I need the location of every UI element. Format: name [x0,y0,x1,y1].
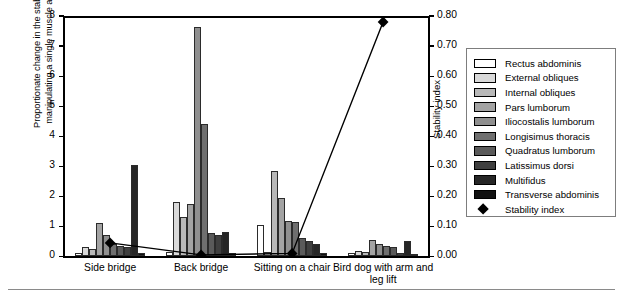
legend-swatch [474,161,496,170]
bar [96,223,103,256]
legend-swatch [474,146,496,155]
left-tick-label: 3 [33,159,55,170]
right-tick-mark [429,196,434,197]
legend-swatch [474,59,496,68]
left-tick-label: 1 [33,219,55,230]
legend-item[interactable]: Pars lumborum [474,100,615,115]
left-tick-mark [59,196,64,197]
right-tick-mark [429,136,434,137]
legend-label: Rectus abdominis [505,58,581,69]
legend-item[interactable]: Quadratus lumborum [474,144,615,159]
right-tick-mark [429,166,434,167]
bar [229,253,236,257]
bar [215,235,222,256]
bar [292,222,299,257]
left-tick-mark [59,136,64,137]
right-tick-mark [429,76,434,77]
bar [187,204,194,257]
right-axis-line [428,16,430,258]
left-tick-mark [59,106,64,107]
right-tick-label: 0.10 [437,219,469,230]
bar [138,253,145,256]
bar [313,244,320,256]
bar [271,171,278,257]
left-tick-mark [59,15,64,16]
right-tick-mark [429,15,434,16]
left-tick-label: 2 [33,189,55,200]
bar [369,240,376,257]
bar [131,165,138,257]
left-tick-label: 6 [33,69,55,80]
right-tick-label: 0.40 [437,129,469,140]
bar [404,241,411,256]
left-tick-mark [59,256,64,257]
legend-label: Quadratus lumborum [505,145,595,156]
bar [299,238,306,257]
bar [264,252,271,256]
left-tick-label: 0 [33,249,55,260]
bottom-axis-line [63,256,430,258]
right-tick-label: 0.20 [437,189,469,200]
bar [320,253,327,256]
bar [194,27,201,257]
right-tick-label: 0.50 [437,99,469,110]
legend-item[interactable]: External obliques [474,71,615,86]
legend-label: Stability index [505,204,564,215]
left-tick-label: 4 [33,129,55,140]
bar [110,244,117,256]
right-tick-mark [429,226,434,227]
legend-label: Multifidus [505,175,546,186]
legend-item[interactable]: Latissimus dorsi [474,158,615,173]
right-tick-label: 0.00 [437,249,469,260]
bar [348,253,355,256]
left-tick-label: 8 [33,9,55,20]
legend-swatch [474,88,496,97]
left-tick-mark [59,166,64,167]
bar [173,202,180,256]
left-tick-label: 7 [33,39,55,50]
bar [376,244,383,257]
legend-label: Latissimus dorsi [505,160,574,171]
legend-item[interactable]: Multifidus [474,173,615,188]
bar [383,246,390,257]
legend-swatch [474,102,496,111]
bar [208,233,215,256]
x-axis-group-label: Bird dog with arm and leg lift [328,262,438,285]
bar [397,253,404,257]
legend-label: Internal obliques [505,87,575,98]
legend-swatch [474,117,496,126]
legend-label: Transverse abdominis [505,189,599,200]
legend-label: External obliques [505,72,579,83]
bar [75,253,82,257]
legend-item[interactable]: Stability index [474,202,615,217]
legend-swatch [474,190,496,199]
legend-item[interactable]: Transverse abdominis [474,187,615,202]
legend-item[interactable]: Internal obliques [474,85,615,100]
right-tick-label: 0.30 [437,159,469,170]
bar [390,247,397,256]
bar [180,217,187,256]
legend-label: Longisimus thoracis [505,131,590,142]
legend: Rectus abdominisExternal obliquesInterna… [466,48,616,217]
legend-swatch [474,73,496,82]
right-tick-label: 0.70 [437,39,469,50]
bar [82,247,89,256]
bar [257,225,264,257]
chart-figure: Proportionate change in the stability in… [0,0,623,298]
plot-area: 012345678 0.000.100.200.300.400.500.600.… [63,16,430,258]
right-tick-mark [429,45,434,46]
legend-item[interactable]: Rectus abdominis [474,56,615,71]
bar [103,235,110,256]
bar [278,198,285,257]
legend-item[interactable]: Longisimus thoracis [474,129,615,144]
left-tick-mark [59,76,64,77]
left-tick-mark [59,226,64,227]
bottom-rule [8,289,615,290]
right-tick-mark [429,106,434,107]
legend-item[interactable]: Iliocostalis lumborum [474,114,615,129]
bar [222,232,229,256]
diamond-marker-icon [474,204,496,215]
right-tick-label: 0.60 [437,69,469,80]
bar-series-container [65,16,429,256]
bar [362,252,369,257]
